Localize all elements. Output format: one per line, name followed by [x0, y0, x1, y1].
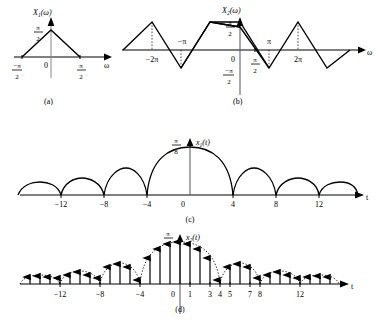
panel-c-arch-right-3 — [319, 182, 358, 195]
panel-a-tick-right-label: π 2 — [77, 62, 86, 81]
svg-text:8: 8 — [174, 148, 178, 156]
panel-c-tick-label-8: 8 — [274, 200, 278, 209]
svg-text:2: 2 — [15, 73, 19, 81]
panel-d-tick-label-4: 4 — [218, 290, 222, 299]
panel-c-arch-right-2 — [276, 178, 319, 195]
panel-d: x2(t) t π 4 −12 −8 −4 0 1 3 4 5 7 8 12 (… — [0, 222, 379, 332]
svg-text:π: π — [253, 56, 257, 64]
panel-b-trough-label: −π 2 — [223, 67, 234, 86]
panel-d-tick-label-3: 3 — [208, 290, 212, 299]
panel-d-tick-label-5: 5 — [228, 290, 232, 299]
panel-d-y-arrow — [177, 234, 184, 242]
panel-d-x-arrow — [340, 281, 349, 288]
panel-c-tick-label-4: 4 — [231, 200, 235, 209]
panel-d-tick-label-1: 1 — [188, 290, 192, 299]
panel-b-x-arrow — [358, 47, 366, 54]
svg-text:π: π — [228, 19, 232, 27]
svg-text:2: 2 — [253, 67, 257, 75]
panel-b-tick-label-negpi: −π — [178, 37, 187, 46]
panel-c-peak-label: π 8 — [172, 137, 181, 156]
panel-c-arch-left-3 — [18, 182, 61, 195]
panel-a-x-arrow — [104, 54, 112, 61]
panel-d-peak-label: π 4 — [164, 230, 173, 249]
svg-text:4: 4 — [166, 241, 170, 249]
panel-d-tick-label-neg12: −12 — [54, 290, 67, 299]
panel-a-caption: (a) — [44, 97, 53, 106]
panel-c-tick-label-neg4: −4 — [143, 200, 152, 209]
panel-c-x-arrow — [355, 192, 364, 199]
panel-c-tick-label-12: 12 — [315, 200, 323, 209]
svg-text:−π: −π — [13, 62, 21, 70]
panel-a-peak-label: π 2 — [34, 24, 43, 43]
panel-d-tick-label-8: 8 — [258, 290, 262, 299]
panel-b: X2(ω) ω π 2 −π 2 −2π −π π 2π 0 π 2 (b) — [118, 0, 379, 112]
panel-b-xlabel: ω — [367, 48, 372, 57]
svg-text:π: π — [174, 137, 178, 145]
panel-a-ylabel: X1(ω) — [32, 8, 52, 18]
svg-text:π: π — [79, 62, 83, 70]
panel-b-origin-label: 0 — [231, 55, 235, 64]
panel-c-origin-label: 0 — [181, 200, 185, 209]
panel-c-arch-left-1 — [104, 168, 147, 195]
figure-container: X1(ω) ω π 2 0 −π 2 π 2 (a) X2(ω) ω — [0, 0, 379, 332]
panel-d-impulse-train — [30, 242, 330, 284]
panel-b-tick-label-2pi: 2π — [294, 55, 302, 64]
svg-text:2: 2 — [79, 73, 83, 81]
panel-c-arch-right-1 — [233, 168, 276, 195]
panel-b-caption: (b) — [233, 97, 243, 106]
panel-b-halfpi-tick-label: π 2 — [251, 56, 260, 75]
panel-d-ylabel: x2(t) — [185, 233, 200, 243]
panel-a-y-arrow — [48, 17, 55, 26]
panel-d-xlabel: t — [351, 282, 354, 291]
panel-a: X1(ω) ω π 2 0 −π 2 π 2 (a) — [0, 0, 120, 112]
panel-c-tick-label-neg8: −8 — [100, 200, 109, 209]
panel-d-tick-label-neg8: −8 — [96, 290, 105, 299]
panel-d-tick-label-7: 7 — [248, 290, 252, 299]
svg-text:π: π — [166, 230, 170, 238]
panel-c-tick-label-neg12: −12 — [55, 200, 68, 209]
panel-c-y-arrow — [187, 138, 194, 146]
panel-d-tick-label-12: 12 — [296, 290, 304, 299]
panel-d-origin-label: 0 — [171, 290, 175, 299]
panel-b-tick-label-pi: π — [267, 37, 271, 46]
panel-c-ylabel: x1(t) — [195, 138, 210, 148]
svg-text:2: 2 — [36, 35, 40, 43]
panel-a-xlabel: ω — [104, 61, 109, 70]
panel-c: x1(t) t π 8 −12 −8 −4 0 4 8 12 (c) — [0, 112, 379, 224]
svg-text:2: 2 — [227, 78, 231, 86]
svg-text:2: 2 — [228, 30, 232, 38]
panel-b-tick-label-neg2pi: −2π — [146, 55, 159, 64]
panel-d-tick-label-neg4: −4 — [136, 290, 145, 299]
svg-text:π: π — [36, 24, 40, 32]
panel-c-xlabel: t — [366, 193, 369, 202]
panel-d-caption: (d) — [175, 305, 185, 314]
panel-b-ylabel: X2(ω) — [221, 6, 241, 16]
panel-c-arch-left-2 — [61, 178, 104, 195]
panel-a-tick-left-label: −π 2 — [12, 62, 22, 81]
panel-a-origin-label: 0 — [44, 61, 48, 70]
svg-text:−π: −π — [225, 67, 233, 75]
